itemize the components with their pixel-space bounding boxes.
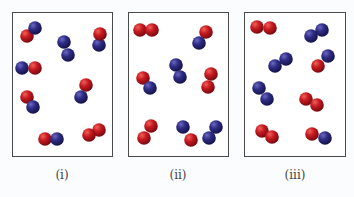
panel-label-iii: (iii) — [275, 168, 315, 182]
panel-i — [12, 12, 113, 157]
panel-ii — [128, 12, 229, 157]
panel-label-i: (i) — [42, 168, 82, 182]
panel-label-ii: (ii) — [158, 168, 198, 182]
panel-iii — [244, 12, 346, 157]
